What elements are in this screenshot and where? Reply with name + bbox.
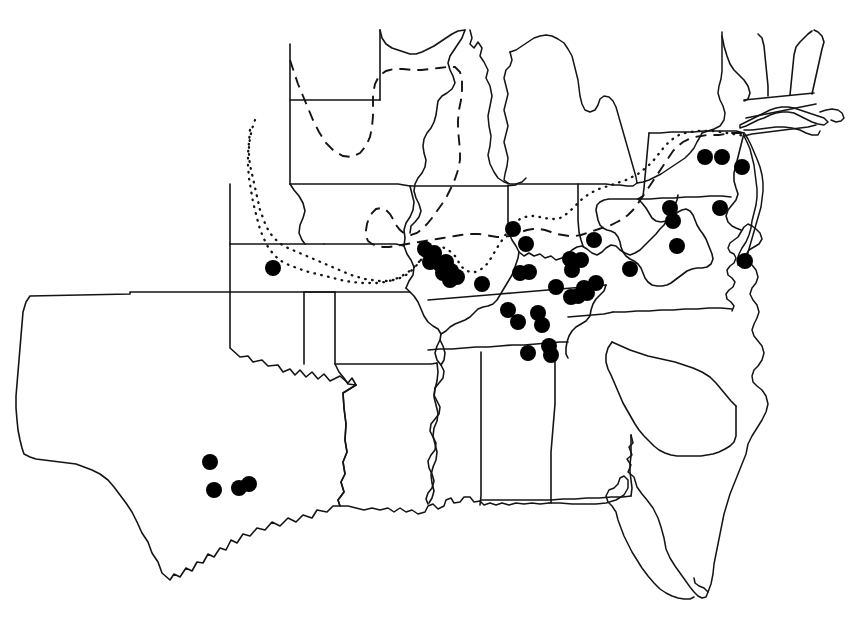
locality-dot — [505, 221, 521, 237]
locality-dot — [202, 454, 218, 470]
locality-dot — [520, 345, 536, 361]
locality-dot — [206, 482, 222, 498]
locality-dot — [588, 275, 604, 291]
locality-dot — [622, 261, 638, 277]
locality-dot — [712, 200, 728, 216]
locality-dot — [737, 253, 753, 269]
locality-dot — [669, 238, 685, 254]
locality-dot — [697, 149, 713, 165]
locality-dot — [714, 149, 730, 165]
locality-dot — [521, 264, 537, 280]
locality-dot — [665, 213, 681, 229]
locality-dot — [518, 236, 534, 252]
locality-dot — [573, 252, 589, 268]
locality-dot — [586, 232, 602, 248]
locality-dot — [534, 317, 550, 333]
locality-dot — [543, 347, 559, 363]
map-canvas — [0, 0, 865, 636]
distribution-map-figure — [0, 0, 865, 636]
locality-dot — [241, 476, 257, 492]
locality-dot — [265, 260, 281, 276]
locality-dot — [548, 279, 564, 295]
locality-dot — [449, 269, 465, 285]
locality-dot — [510, 314, 526, 330]
locality-dot — [734, 159, 750, 175]
locality-dot — [474, 276, 490, 292]
